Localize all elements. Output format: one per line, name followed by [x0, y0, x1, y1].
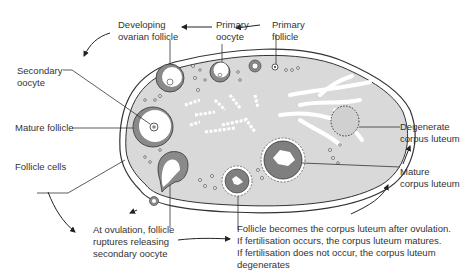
developing-corpus-luteum [222, 166, 252, 196]
mature-follicle [133, 107, 173, 147]
label-ovulation: At ovulation, follicle ruptures releasin… [93, 224, 174, 260]
label-mature-corpus-luteum: Mature corpus luteum [400, 166, 460, 190]
label-developing-follicle: Developing ovarian follicle [118, 19, 178, 43]
mature-corpus-luteum [261, 138, 305, 182]
label-primary-follicle: Primary follicle [272, 19, 305, 43]
ovary-diagram: Developing ovarian follicle Primary oocy… [0, 0, 467, 277]
primary-oocyte [210, 62, 230, 82]
primary-follicle [272, 64, 278, 70]
label-primary-oocyte: Primary oocyte [216, 19, 249, 43]
label-degenerate-corpus-luteum: Degenerate corpus luteum [400, 121, 460, 145]
label-corpus-luteum-note: Follicle becomes the corpus luteum after… [237, 223, 451, 271]
label-mature-follicle: Mature follicle [15, 122, 74, 134]
label-follicle-cells: Follicle cells [15, 161, 66, 173]
developing-follicle [156, 64, 184, 92]
label-secondary-oocyte: Secondary oocyte [17, 65, 62, 89]
small-follicle [249, 60, 261, 72]
degenerate-corpus-luteum [331, 106, 359, 136]
